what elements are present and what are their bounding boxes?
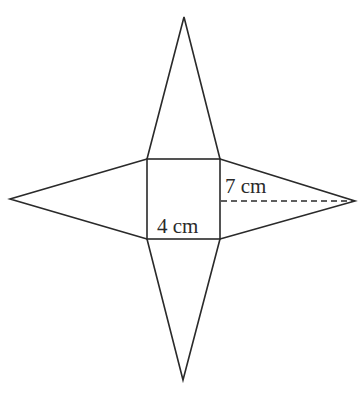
slant-height-label: 7 cm [225,176,266,197]
triangle-face-right [220,159,355,239]
pyramid-net-diagram [0,0,363,396]
base-side-label: 4 cm [157,216,198,237]
triangle-face-bottom [147,239,220,380]
triangle-face-top [147,17,220,159]
triangle-face-left [10,159,147,239]
